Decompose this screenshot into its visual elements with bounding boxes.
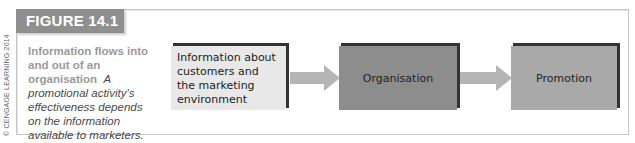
node-promotion: Promotion — [511, 46, 617, 110]
arrow-shaft — [460, 72, 498, 84]
arrow-info-to-organisation — [290, 65, 340, 91]
arrow-organisation-to-promotion — [460, 65, 512, 91]
node-organisation: Organisation — [339, 46, 457, 110]
figure-label: FIGURE 14.1 — [16, 9, 124, 33]
caption-title: Information flows into and out of an org… — [28, 45, 148, 85]
node-information-label: Information about customers and the mark… — [177, 51, 276, 106]
arrow-shaft — [290, 72, 326, 84]
arrow-head-icon — [496, 65, 512, 91]
node-promotion-label: Promotion — [536, 72, 592, 85]
copyright-credit: © CENGAGE LEARNING 2014 — [3, 34, 10, 136]
node-information: Information about customers and the mark… — [171, 46, 286, 110]
arrow-head-icon — [324, 65, 340, 91]
figure-caption: Information flows into and out of an org… — [28, 44, 158, 142]
node-organisation-label: Organisation — [363, 72, 433, 85]
